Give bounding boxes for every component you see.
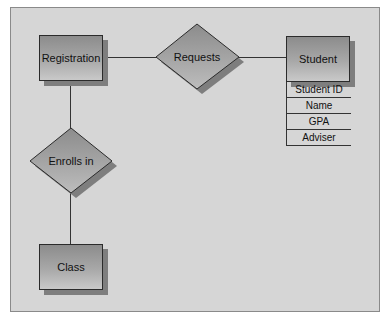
requests-label: Requests xyxy=(174,51,220,63)
registration-label: Registration xyxy=(42,52,101,64)
attribute-gpa: GPA xyxy=(287,114,351,130)
class-entity: Class xyxy=(39,244,103,290)
student-label: Student xyxy=(299,53,337,65)
class-label: Class xyxy=(57,261,85,273)
attribute-name: Name xyxy=(287,98,351,114)
student-entity: Student xyxy=(286,36,350,82)
student-attributes: Student ID Name GPA Adviser xyxy=(286,82,351,146)
enrolls-in-label: Enrolls in xyxy=(48,155,93,167)
attribute-adviser: Adviser xyxy=(287,130,351,146)
registration-entity: Registration xyxy=(39,35,103,81)
attribute-student-id: Student ID xyxy=(287,82,351,98)
